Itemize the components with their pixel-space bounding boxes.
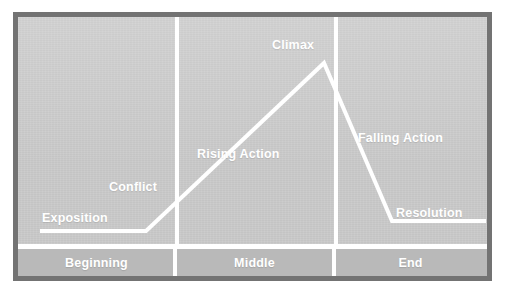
stage-cell-end: End — [334, 249, 487, 276]
plot-diagram: Exposition Conflict Rising Action Climax… — [0, 0, 505, 293]
label-rising-action: Rising Action — [197, 147, 280, 161]
stage-cell-beginning: Beginning — [18, 249, 175, 276]
diagram-frame: Exposition Conflict Rising Action Climax… — [13, 12, 492, 281]
label-resolution: Resolution — [396, 206, 463, 220]
label-conflict: Conflict — [109, 180, 157, 194]
stage-cell-middle: Middle — [175, 249, 334, 276]
diagram-plate: Exposition Conflict Rising Action Climax… — [18, 17, 487, 276]
stage-label-middle: Middle — [234, 256, 275, 270]
label-falling-action: Falling Action — [358, 131, 443, 145]
stage-band: Beginning Middle End — [18, 244, 487, 276]
stage-label-end: End — [398, 256, 422, 270]
label-climax: Climax — [272, 38, 314, 52]
stage-label-beginning: Beginning — [65, 256, 128, 270]
label-exposition: Exposition — [42, 211, 108, 225]
